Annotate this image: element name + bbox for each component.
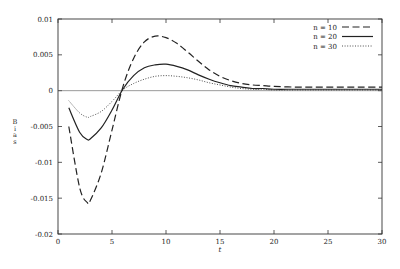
x-axis-title: t [219,246,222,254]
bias-line-chart: 0.010.0050-0.005-0.01-0.015-0.02 0510152… [0,0,400,269]
plot-frame [58,19,382,234]
x-tick-label: 30 [378,238,387,246]
x-tick-label: 10 [162,238,171,246]
series-line-n10 [69,36,382,204]
y-tick-label: -0.015 [31,195,53,203]
x-tick-label: 20 [270,238,279,246]
legend: n = 10n = 20n = 30 [313,24,373,51]
y-tick-label: 0.005 [33,51,53,59]
y-tick-label: -0.005 [31,123,53,131]
series-group [69,36,382,204]
x-tick-label: 5 [110,238,114,246]
chart-canvas: 0.010.0050-0.005-0.01-0.015-0.02 0510152… [0,0,400,269]
legend-label: n = 30 [313,43,337,51]
y-tick-label: 0 [49,87,53,95]
y-tick-label: -0.02 [35,231,53,239]
legend-label: n = 10 [313,24,337,32]
y-tick-label: 0.01 [37,16,53,24]
legend-label: n = 20 [313,33,337,41]
x-tick-label: 25 [324,238,333,246]
x-tick-label: 15 [216,238,225,246]
series-line-n20 [69,64,382,140]
x-axis-ticks: 051015202530 [56,19,387,246]
y-tick-label: -0.01 [35,159,53,167]
x-tick-label: 0 [56,238,60,246]
y-axis-title: Bias [13,118,18,146]
series-line-n30 [69,76,382,118]
y-axis-title-letter: s [13,138,16,146]
